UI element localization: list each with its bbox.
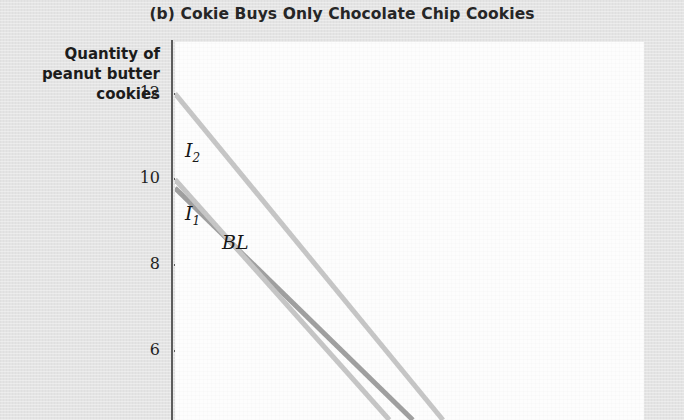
y-tick-label-10: 10 <box>112 168 160 187</box>
curve-label-I1: I1 <box>185 202 200 228</box>
curve-label-base-BL: BL <box>222 231 249 253</box>
y-axis-label-line-1: Quantity of <box>8 44 160 64</box>
figure-panel: (b) Cokie Buys Only Chocolate Chip Cooki… <box>0 0 684 420</box>
y-axis-line <box>171 40 173 420</box>
curve-I1 <box>175 179 389 420</box>
y-tick-label-8: 8 <box>112 254 160 273</box>
curve-label-base-I1: I <box>185 202 193 224</box>
curve-label-I2: I2 <box>185 139 200 165</box>
panel-title: (b) Cokie Buys Only Chocolate Chip Cooki… <box>0 5 684 23</box>
curve-label-subscript-I1: 1 <box>193 214 201 228</box>
curve-label-subscript-I2: 2 <box>193 151 201 165</box>
curve-label-BL: BL <box>222 231 249 253</box>
y-tick-label-6: 6 <box>112 340 160 359</box>
curve-label-base-I2: I <box>185 139 193 161</box>
y-tick-label-12: 12 <box>112 83 160 102</box>
curve-I2 <box>175 94 443 420</box>
y-axis-label-line-2: peanut butter <box>8 64 160 84</box>
